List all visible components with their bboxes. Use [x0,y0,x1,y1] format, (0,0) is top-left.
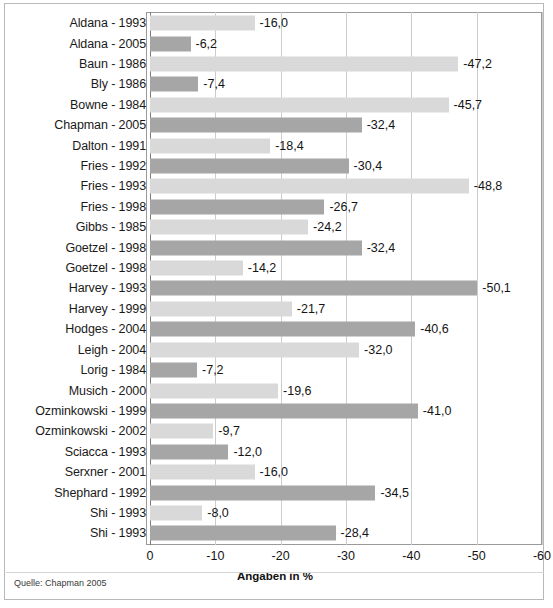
bar-row: Fries - 1993-48,8 [5,176,545,196]
bar-category-label: Chapman - 2005 [54,119,146,132]
bar-row: Harvey - 1993-50,1 [5,278,545,298]
bar[interactable] [150,138,270,153]
bar-row: Ozminkowski - 1999-41,0 [5,401,545,421]
bar[interactable] [150,485,375,500]
bar-chart: Aldana - 1993-16,0Aldana - 2005-6,2Baun … [5,4,545,601]
bar[interactable] [150,16,255,31]
bar-row: Aldana - 2005-6,2 [5,33,545,53]
bar-value-label: -48,8 [469,180,503,193]
bar-rows: Aldana - 1993-16,0Aldana - 2005-6,2Baun … [5,13,545,544]
bar-category-label: Goetzel - 1998 [65,241,146,254]
bar[interactable] [150,179,469,194]
x-tick-0: 0 [147,549,154,563]
bar-value-label: -12,0 [228,445,262,458]
bar-value-label: -7,4 [198,78,225,91]
bar-category-label: Baun - 1986 [79,58,146,71]
bar[interactable] [150,118,362,133]
bar-row: Baun - 1986-47,2 [5,54,545,74]
bar[interactable] [150,240,362,255]
bar-row: Harvey - 1999-21,7 [5,299,545,319]
bar-value-label: -45,7 [449,99,483,112]
bar[interactable] [150,505,202,520]
bar-value-label: -30,4 [349,160,383,173]
bar-category-label: Serxner - 2001 [65,466,146,479]
bar[interactable] [150,444,228,459]
bar[interactable] [150,342,359,357]
x-tick--10: -10 [206,549,224,563]
x-tick--30: -30 [337,549,355,563]
bar-value-label: -47,2 [458,58,492,71]
bar-value-label: -9,7 [213,425,240,438]
bar-row: Musich - 2000-19,6 [5,380,545,400]
bar-category-label: Lorig - 1984 [80,364,146,377]
bar[interactable] [150,199,324,214]
bar-row: Goetzel - 1998-32,4 [5,237,545,257]
bar[interactable] [150,57,458,72]
bar-row: Shi - 1993-28,4 [5,523,545,543]
bar-category-label: Fries - 1998 [81,201,147,214]
bar[interactable] [150,261,243,276]
bar-row: Goetzel - 1998-14,2 [5,258,545,278]
bar-value-label: -16,0 [255,466,289,479]
bar-category-label: Bowne - 1984 [70,99,146,112]
bar-row: Shephard - 1992-34,5 [5,482,545,502]
chart-figure: Aldana - 1993-16,0Aldana - 2005-6,2Baun … [4,3,544,600]
bar-category-label: Dalton - 1991 [72,139,146,152]
bar-category-label: Musich - 2000 [69,384,146,397]
bar-row: Fries - 1992-30,4 [5,156,545,176]
bar[interactable] [150,97,449,112]
source-note: Quelle: Chapman 2005 [14,578,107,588]
bar-category-label: Harvey - 1999 [69,303,146,316]
bar[interactable] [150,77,198,92]
bar-value-label: -41,0 [418,405,452,418]
bar-value-label: -50,1 [477,282,511,295]
x-tick--40: -40 [402,549,420,563]
bar-row: Gibbs - 1985-24,2 [5,217,545,237]
bar[interactable] [150,424,213,439]
bar[interactable] [150,526,336,541]
bar-row: Chapman - 2005-32,4 [5,115,545,135]
bar-value-label: -16,0 [255,17,289,30]
bar[interactable] [150,36,191,51]
bar-row: Bly - 1986-7,4 [5,74,545,94]
bar[interactable] [150,322,415,337]
bar-row: Serxner - 2001-16,0 [5,462,545,482]
bar-value-label: -21,7 [292,303,326,316]
bar-row: Fries - 1998-26,7 [5,197,545,217]
bar-value-label: -40,6 [415,323,449,336]
bar-row: Bowne - 1984-45,7 [5,95,545,115]
bar-category-label: Ozminkowski - 2002 [35,425,146,438]
bar-category-label: Fries - 1992 [81,160,147,173]
source-divider [6,572,544,573]
bar-value-label: -6,2 [191,37,218,50]
bar-value-label: -32,0 [359,343,393,356]
bar[interactable] [150,159,349,174]
x-axis-tick-labels: 0-10-20-30-40-50-60 [5,549,545,567]
bar[interactable] [150,363,197,378]
x-tick--60: -60 [533,549,551,563]
bar-value-label: -24,2 [308,221,342,234]
bar-row: Dalton - 1991-18,4 [5,135,545,155]
bar[interactable] [150,465,255,480]
bar-category-label: Aldana - 1993 [69,17,146,30]
bar-category-label: Bly - 1986 [91,78,146,91]
bar-value-label: -26,7 [324,201,358,214]
bar[interactable] [150,383,278,398]
bar-value-label: -14,2 [243,262,277,275]
bar-category-label: Shi - 1993 [90,507,146,520]
bar[interactable] [150,301,292,316]
bar-value-label: -19,6 [278,384,312,397]
bar[interactable] [150,281,477,296]
bar-value-label: -8,0 [202,507,229,520]
bar-category-label: Hodges - 2004 [65,323,146,336]
bar-category-label: Aldana - 2005 [69,37,146,50]
bar[interactable] [150,403,418,418]
bar[interactable] [150,220,308,235]
bar-category-label: Gibbs - 1985 [76,221,146,234]
bar-value-label: -7,2 [197,364,224,377]
bar-value-label: -32,4 [362,119,396,132]
bar-value-label: -34,5 [375,486,409,499]
bar-category-label: Shi - 1993 [90,527,146,540]
bar-row: Shi - 1993-8,0 [5,503,545,523]
bar-category-label: Shephard - 1992 [54,486,146,499]
